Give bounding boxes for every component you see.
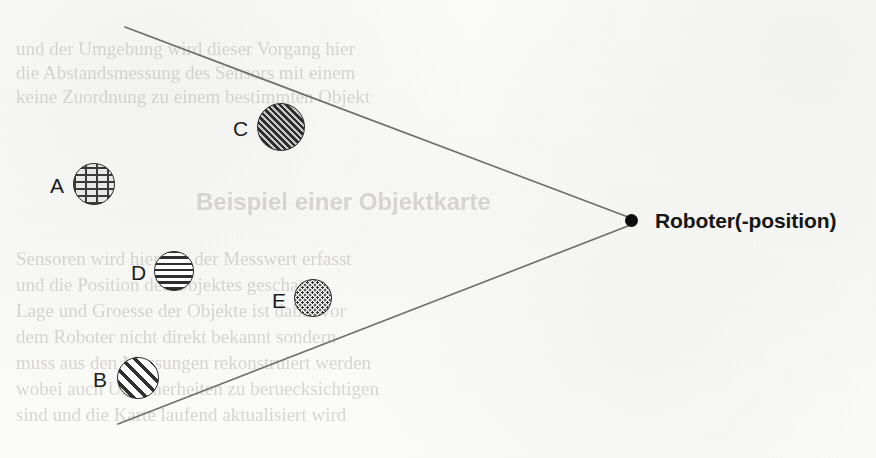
object-marker-c (257, 103, 305, 151)
cone-lower-line (118, 226, 628, 424)
object-label-b: B (93, 369, 107, 390)
object-marker-b (117, 357, 159, 399)
object-label-e: E (272, 290, 286, 311)
object-label-d: D (131, 262, 146, 283)
robot-position-label: Roboter(-position) (655, 210, 836, 231)
object-label-c: C (233, 118, 248, 139)
cone-upper-line (125, 27, 628, 217)
object-marker-a (73, 163, 115, 205)
object-marker-e (294, 279, 332, 317)
object-label-a: A (50, 175, 64, 196)
scanned-page: und der Umgebung wird dieser Vorgang hie… (0, 0, 876, 458)
object-marker-d (154, 251, 194, 291)
robot-position-dot (625, 214, 638, 227)
